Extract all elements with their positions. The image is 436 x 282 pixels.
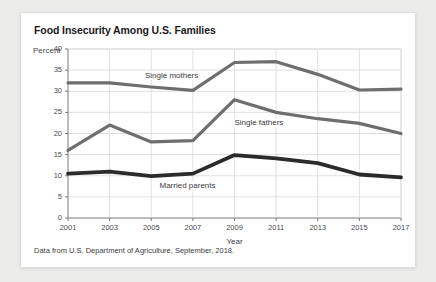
x-axis-tick-label: 2009: [219, 223, 251, 232]
series-label-single-mothers: Single mothers: [143, 71, 200, 80]
figure-card: Food Insecurity Among U.S. Families Perc…: [20, 12, 416, 268]
y-axis-tick-label: 40: [36, 44, 62, 53]
y-axis-tick-label: 15: [36, 150, 62, 159]
y-axis-tick-label: 10: [36, 171, 62, 180]
source-caption: Data from U.S. Department of Agriculture…: [34, 246, 234, 255]
x-axis-tick-label: 2007: [177, 223, 209, 232]
x-axis-tick-label: 2013: [302, 223, 334, 232]
y-axis-tick-label: 30: [36, 86, 62, 95]
series-label-single-fathers: Single fathers: [232, 118, 285, 127]
y-axis-tick-label: 25: [36, 107, 62, 116]
x-axis-title: Year: [68, 237, 401, 246]
y-axis-tick-label: 0: [36, 213, 62, 222]
y-axis-tick-label: 35: [36, 65, 62, 74]
y-axis-tick-label: 20: [36, 129, 62, 138]
line-chart: 0510152025303540200120032005200720092011…: [21, 13, 417, 269]
x-axis-tick-label: 2003: [94, 223, 126, 232]
x-axis-tick-label: 2005: [135, 223, 167, 232]
x-axis-tick-label: 2011: [260, 223, 292, 232]
x-axis-tick-label: 2017: [385, 223, 417, 232]
series-label-married-parents: Married parents: [157, 181, 217, 190]
x-axis-tick-label: 2001: [52, 223, 84, 232]
x-axis-tick-label: 2015: [343, 223, 375, 232]
y-axis-tick-label: 5: [36, 192, 62, 201]
